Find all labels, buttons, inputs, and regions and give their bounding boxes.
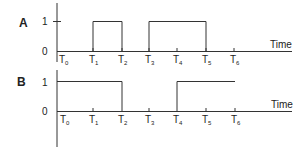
signal-a-panel: A 1 0 Time T0 T1 T2 T3 T4 T5 T6 — [19, 3, 292, 66]
signal-b-time-label: Time — [271, 99, 293, 110]
svg-text:T5: T5 — [202, 54, 212, 66]
svg-text:T0: T0 — [59, 54, 69, 66]
signal-a-ticks — [93, 48, 234, 52]
svg-text:T3: T3 — [145, 114, 155, 126]
signal-a-pulse-2 — [149, 22, 206, 52]
signal-a-time-label: Time — [270, 39, 292, 50]
svg-text:T6: T6 — [231, 114, 241, 126]
svg-text:T1: T1 — [89, 54, 99, 66]
signal-b-pulse-2 — [177, 82, 235, 112]
signal-b-level-1-label: 1 — [42, 77, 48, 88]
signal-a-level-1-label: 1 — [42, 16, 48, 27]
signal-b-pulse-1 — [57, 82, 122, 112]
signal-a-label: A — [19, 16, 28, 30]
signal-a-time-marks: T0 T1 T2 T3 T4 T5 T6 — [59, 54, 240, 66]
svg-text:T1: T1 — [89, 114, 99, 126]
signal-b-time-marks: T0 T1 T2 T3 T4 T5 T6 — [60, 114, 241, 126]
signal-b-ticks — [93, 108, 235, 112]
svg-text:T2: T2 — [118, 114, 128, 126]
signal-b-level-0-label: 0 — [42, 106, 48, 117]
svg-text:T0: T0 — [60, 114, 70, 126]
signal-b-panel: B 1 0 Time T0 T1 T2 T3 T4 T5 T6 — [17, 70, 293, 147]
signal-a-pulse-1 — [93, 22, 122, 52]
svg-text:T5: T5 — [202, 114, 212, 126]
svg-text:T4: T4 — [173, 54, 183, 66]
timing-diagram: A 1 0 Time T0 T1 T2 T3 T4 T5 T6 — [0, 0, 308, 153]
svg-text:T4: T4 — [173, 114, 183, 126]
svg-text:T2: T2 — [118, 54, 128, 66]
signal-a-level-0-label: 0 — [42, 46, 48, 57]
svg-text:T3: T3 — [145, 54, 155, 66]
signal-b-label: B — [17, 75, 26, 89]
svg-text:T6: T6 — [230, 54, 240, 66]
